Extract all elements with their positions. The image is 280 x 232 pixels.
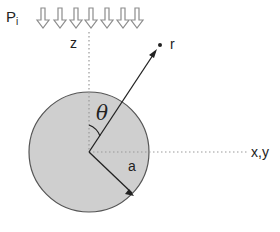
theta-label: θ [96,103,108,123]
arrow-icon [37,8,49,28]
pressure-arrows [37,8,143,28]
pressure-subscript: i [16,16,18,27]
radius-label: a [128,159,136,173]
point-r [158,43,162,47]
r-arrowhead-icon [149,49,157,58]
pressure-label: Pi [6,9,18,27]
xy-axis-label: x,y [251,145,269,159]
arrow-icon [101,8,113,28]
arrow-icon [117,8,129,28]
arrow-icon [70,8,82,28]
arrow-icon [131,8,143,28]
arrow-icon [54,8,66,28]
arrow-icon [85,8,97,28]
diagram-canvas [0,0,280,232]
pressure-symbol: P [6,8,16,25]
point-r-label: r [170,37,175,51]
z-axis-label: z [70,36,77,50]
